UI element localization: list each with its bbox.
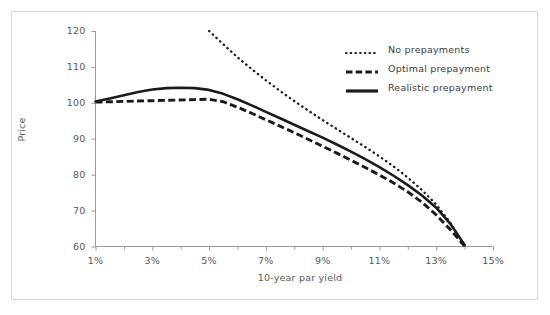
y-tick-label: 100 xyxy=(60,97,86,108)
x-tick-label: 15% xyxy=(476,255,510,266)
legend-item-realistic-prepayment: Realistic prepayment xyxy=(340,82,510,101)
chart-legend: No prepayments Optimal prepayment Realis… xyxy=(340,44,510,101)
series-line xyxy=(96,88,465,245)
x-tick-label: 7% xyxy=(249,255,283,266)
x-axis-ticks xyxy=(96,247,494,251)
x-tick-label: 5% xyxy=(192,255,226,266)
y-tick-label: 120 xyxy=(60,25,86,36)
legend-swatch-dashed xyxy=(345,69,379,75)
x-tick-label: 3% xyxy=(135,255,169,266)
y-tick-label: 60 xyxy=(60,241,86,252)
legend-item-optimal-prepayment: Optimal prepayment xyxy=(340,63,510,82)
y-tick-label: 110 xyxy=(60,61,86,72)
x-tick-label: 11% xyxy=(362,255,396,266)
x-tick-label: 13% xyxy=(419,255,453,266)
legend-label: Realistic prepayment xyxy=(388,82,493,93)
legend-label: Optimal prepayment xyxy=(388,63,490,74)
y-axis-title: Price xyxy=(16,100,27,160)
x-tick-label: 9% xyxy=(306,255,340,266)
series-line xyxy=(96,99,465,246)
legend-swatch-dotted xyxy=(345,50,379,56)
y-tick-label: 70 xyxy=(60,205,86,216)
y-axis-ticks xyxy=(92,32,96,248)
chart-figure: 60708090100110120 1%3%5%7%9%11%13%15% Pr… xyxy=(0,0,550,315)
x-axis-title: 10-year par yield xyxy=(200,272,400,283)
legend-label: No prepayments xyxy=(388,44,470,55)
y-tick-label: 90 xyxy=(60,133,86,144)
x-tick-label: 1% xyxy=(79,255,113,266)
y-tick-label: 80 xyxy=(60,169,86,180)
legend-swatch-solid xyxy=(345,88,379,94)
legend-item-no-prepayments: No prepayments xyxy=(340,44,510,63)
